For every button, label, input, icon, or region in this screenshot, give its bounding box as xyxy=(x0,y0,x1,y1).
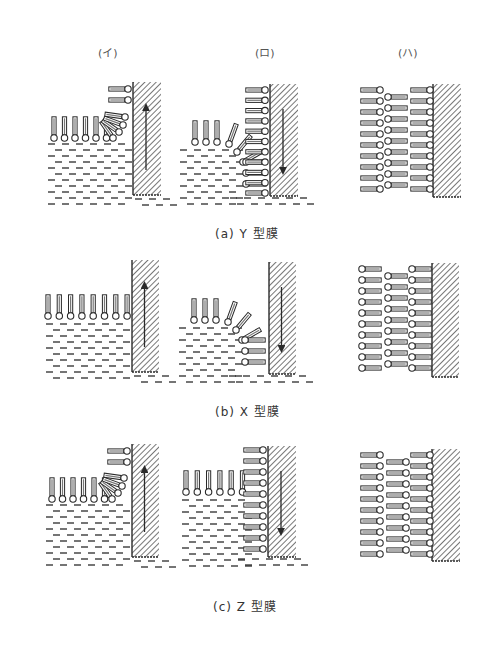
amphiphile-molecule xyxy=(101,295,107,319)
substrate-plate xyxy=(433,84,461,197)
amphiphile-molecule xyxy=(387,470,409,476)
amphiphile-molecule xyxy=(385,182,407,188)
amphiphile-molecule xyxy=(244,469,266,475)
substrate-plate xyxy=(132,444,159,557)
amphiphile-molecule xyxy=(409,321,431,327)
amphiphile-molecule xyxy=(109,97,131,103)
amphiphile-molecule xyxy=(214,121,220,145)
amphiphile-molecule xyxy=(246,97,268,103)
substrate-plate xyxy=(432,449,460,561)
amphiphile-molecule xyxy=(244,513,266,519)
water-subphase xyxy=(134,376,176,382)
amphiphile-molecule xyxy=(90,295,96,319)
substrate-plate xyxy=(268,446,296,557)
amphiphile-molecule xyxy=(244,502,266,508)
amphiphile-molecule xyxy=(225,301,237,325)
amphiphile-molecule xyxy=(387,536,409,542)
amphiphile-molecule xyxy=(411,87,433,93)
amphiphile-molecule xyxy=(93,117,99,141)
amphiphile-molecule xyxy=(61,117,67,141)
amphiphile-molecule xyxy=(109,86,131,92)
amphiphile-molecule xyxy=(409,288,431,294)
amphiphile-molecule xyxy=(72,117,78,141)
amphiphile-molecule xyxy=(387,459,409,465)
amphiphile-molecule xyxy=(361,507,383,513)
amphiphile-molecule xyxy=(385,350,407,356)
amphiphile-molecule xyxy=(113,295,119,319)
amphiphile-molecule xyxy=(359,332,381,338)
amphiphile-molecule xyxy=(49,478,55,502)
amphiphile-molecule xyxy=(361,496,383,502)
amphiphile-molecule xyxy=(361,120,383,126)
amphiphile-molecule xyxy=(183,471,189,495)
amphiphile-molecule xyxy=(246,138,268,144)
amphiphile-molecule xyxy=(246,107,268,113)
amphiphile-molecule xyxy=(361,529,383,535)
amphiphile-molecule xyxy=(361,551,383,557)
amphiphile-molecule xyxy=(359,288,381,294)
amphiphile-molecule xyxy=(385,273,407,279)
amphiphile-molecule xyxy=(411,186,433,192)
amphiphile-molecule xyxy=(45,295,51,319)
amphiphile-molecule xyxy=(82,117,88,141)
water-subphase xyxy=(48,144,132,204)
amphiphile-molecule xyxy=(385,105,407,111)
substrate-plate xyxy=(432,263,459,377)
amphiphile-molecule xyxy=(411,153,433,159)
amphiphile-molecule xyxy=(387,514,409,520)
amphiphile-molecule xyxy=(361,474,383,480)
amphiphile-molecule xyxy=(385,138,407,144)
amphiphile-molecule xyxy=(385,94,407,100)
amphiphile-molecule xyxy=(242,337,265,343)
amphiphile-molecule xyxy=(359,310,381,316)
amphiphile-molecule xyxy=(359,299,381,305)
amphiphile-molecule xyxy=(226,123,238,147)
amphiphile-molecule xyxy=(361,131,383,137)
amphiphile-molecule xyxy=(246,87,268,93)
amphiphile-molecule xyxy=(203,121,209,145)
amphiphile-molecule xyxy=(359,277,381,283)
amphiphile-molecule xyxy=(409,299,431,305)
water-subphase xyxy=(134,561,176,567)
amphiphile-molecule xyxy=(361,540,383,546)
amphiphile-molecule xyxy=(411,109,433,115)
amphiphile-molecule xyxy=(56,295,62,319)
amphiphile-molecule xyxy=(411,485,433,491)
amphiphile-molecule xyxy=(387,481,409,487)
amphiphile-molecule xyxy=(246,149,268,155)
lb-film-deposition-diagram xyxy=(0,0,489,659)
amphiphile-molecule xyxy=(244,480,266,486)
amphiphile-molecule xyxy=(202,299,208,323)
amphiphile-molecule xyxy=(361,164,383,170)
amphiphile-molecule xyxy=(67,295,73,319)
amphiphile-molecule xyxy=(411,507,433,513)
amphiphile-molecule xyxy=(361,87,383,93)
amphiphile-molecule xyxy=(244,458,266,464)
amphiphile-molecule xyxy=(359,343,381,349)
amphiphile-molecule xyxy=(411,518,433,524)
amphiphile-molecule xyxy=(246,169,268,175)
amphiphile-molecule xyxy=(385,160,407,166)
amphiphile-molecule xyxy=(409,354,431,360)
amphiphile-molecule xyxy=(411,175,433,181)
amphiphile-molecule xyxy=(233,312,251,333)
substrate-plate xyxy=(132,260,159,372)
amphiphile-molecule xyxy=(244,546,266,552)
amphiphile-molecule xyxy=(411,529,433,535)
amphiphile-molecule xyxy=(387,492,409,498)
amphiphile-molecule xyxy=(385,328,407,334)
substrate-plate xyxy=(269,262,296,374)
amphiphile-molecule xyxy=(91,478,97,502)
water-subphase xyxy=(238,559,308,565)
amphiphile-molecule xyxy=(361,98,383,104)
amphiphile-molecule xyxy=(409,332,431,338)
amphiphile-molecule xyxy=(411,164,433,170)
water-subphase xyxy=(46,505,130,565)
amphiphile-molecule xyxy=(361,153,383,159)
amphiphile-molecule xyxy=(411,551,433,557)
amphiphile-molecule xyxy=(108,459,130,465)
amphiphile-molecule xyxy=(194,471,200,495)
amphiphile-molecule xyxy=(361,186,383,192)
amphiphile-molecule xyxy=(409,310,431,316)
amphiphile-molecule xyxy=(411,120,433,126)
